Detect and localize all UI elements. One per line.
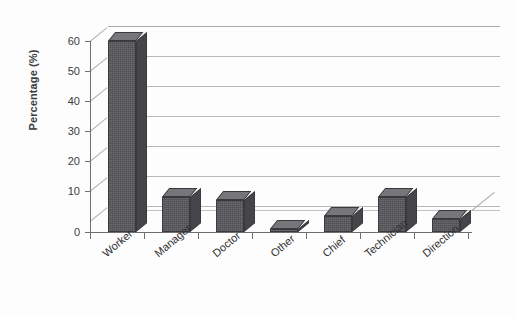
x-tick-label-other: Other xyxy=(268,232,297,259)
depth-connector-20 xyxy=(90,147,108,162)
y-axis-line xyxy=(90,41,91,233)
y-tick-mark-10 xyxy=(85,191,91,192)
depth-connector-0 xyxy=(90,207,108,222)
x-tick-mark-3 xyxy=(252,232,253,239)
y-tick-label-10: 10 xyxy=(52,185,80,197)
y-tick-mark-50 xyxy=(85,71,91,72)
depth-connector-60 xyxy=(90,27,108,42)
y-tick-mark-20 xyxy=(85,161,91,162)
bar-chart: Percentage (%) 60 50 xyxy=(0,0,517,317)
plot-area: 60 50 40 30 20 10 0 xyxy=(0,0,517,317)
gridline-50 xyxy=(108,86,500,87)
gridline-20 xyxy=(108,176,500,177)
x-tick-mark-2 xyxy=(198,232,199,239)
plot-back-wall-top xyxy=(108,26,500,27)
bar-front-doctor xyxy=(216,200,244,232)
depth-connector-50 xyxy=(90,57,108,72)
y-tick-label-30: 30 xyxy=(52,125,80,137)
depth-connector-10 xyxy=(90,177,108,192)
y-tick-label-40: 40 xyxy=(52,95,80,107)
y-tick-label-50: 50 xyxy=(52,65,80,77)
x-tick-mark-4 xyxy=(306,232,307,239)
bar-front-other xyxy=(270,229,298,232)
y-tick-mark-40 xyxy=(85,101,91,102)
y-tick-label-60: 60 xyxy=(52,35,80,47)
x-tick-mark-5 xyxy=(360,232,361,239)
x-tick-mark-7 xyxy=(468,232,469,239)
gridline-40 xyxy=(108,116,500,117)
bar-side-worker xyxy=(136,32,147,232)
y-tick-mark-60 xyxy=(85,41,91,42)
x-tick-label-doctor: Doctor xyxy=(210,229,243,259)
bar-front-chief xyxy=(324,216,352,232)
gridline-30 xyxy=(108,146,500,147)
y-tick-mark-30 xyxy=(85,131,91,132)
x-tick-mark-0 xyxy=(90,232,91,239)
plot-floor-right-edge xyxy=(472,192,495,211)
bar-front-worker xyxy=(108,41,136,232)
y-tick-label-20: 20 xyxy=(52,155,80,167)
x-tick-mark-1 xyxy=(144,232,145,239)
gridline-60 xyxy=(108,56,500,57)
y-tick-label-0: 0 xyxy=(52,226,80,238)
x-tick-mark-6 xyxy=(414,232,415,239)
depth-connector-40 xyxy=(90,87,108,102)
depth-connector-30 xyxy=(90,117,108,132)
x-tick-label-chief: Chief xyxy=(320,233,347,259)
